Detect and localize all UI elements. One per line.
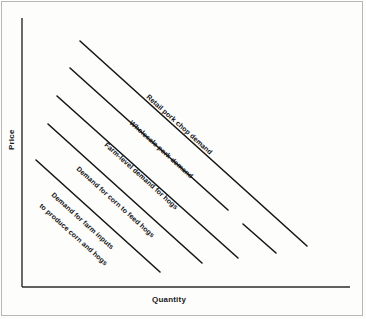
demand-curve-wholesale-pork-b — [243, 224, 276, 253]
demand-curve-corn-to-feed-hogs — [48, 124, 202, 263]
demand-curve-retail-pork-chop — [80, 41, 307, 246]
y-axis-label: Price — [7, 129, 16, 150]
chart-figure: Price Quantity Retail pork chop demand W… — [0, 0, 366, 319]
chart-canvas — [0, 0, 366, 319]
x-axis-label: Quantity — [152, 295, 186, 304]
